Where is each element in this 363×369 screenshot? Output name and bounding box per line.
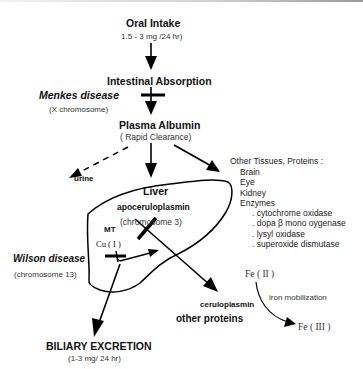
other-proteins-label: other proteins: [176, 314, 243, 324]
apoceruloplasmin-chromosome: (chromosome 3): [120, 218, 182, 227]
other-tissues-header: Other Tissues, Proteins :: [230, 157, 323, 166]
intestinal-absorption-label: Intestinal Absorption: [107, 76, 212, 87]
biliary-excretion-dose: (1-3 mg/ 24 hr): [68, 355, 121, 363]
oral-intake-label: Oral Intake: [126, 18, 180, 29]
menkes-disease-label: Menkes disease: [39, 90, 119, 101]
enzyme-item: . superoxide dismutase: [252, 239, 346, 249]
enzyme-list: . cytochrome oxidase . dopa β mono oygen…: [252, 208, 346, 249]
tissue-item: Eye: [240, 177, 275, 187]
liver-label: Liver: [143, 186, 168, 197]
fe-ii-label: Fe ( II ): [245, 270, 274, 280]
arrow-liver-to-biliary: [92, 264, 120, 337]
arrow-intestinal-to-plasma: [145, 87, 157, 115]
enzyme-item: . cytochrome oxidase: [252, 208, 346, 218]
plasma-albumin-label: Plasma Albumin: [119, 120, 200, 131]
enzyme-item: . lysyl oxidase: [252, 229, 346, 239]
wilson-disease-label: Wilson disease: [13, 254, 85, 264]
arrow-plasma-to-liver: [145, 143, 157, 178]
tissue-item: Brain: [240, 167, 275, 177]
tissue-item: Enzymes: [240, 198, 275, 208]
urine-label: urine: [74, 175, 94, 183]
wilson-chromosome: (chromosome 13): [14, 271, 77, 279]
enzyme-item: . dopa β mono oygenase: [252, 218, 346, 228]
fe-iii-label: Fe ( III ): [298, 323, 330, 333]
biliary-excretion-label: BILIARY EXCRETION: [46, 341, 152, 352]
plasma-albumin-sub: ( Rapid Clearance): [120, 133, 191, 142]
menkes-chromosome: (X chromosome): [49, 106, 108, 114]
ceruloplasmin-label: ceruloplasmin: [200, 301, 254, 309]
mt-label: MT: [104, 226, 116, 234]
copper-metabolism-diagram: Oral Intake 1.5 - 3 mg /24 hr) Intestina…: [0, 0, 363, 369]
arrow-oral-to-intestinal: [145, 43, 157, 70]
arrow-fe2-to-fe3: [256, 282, 296, 327]
other-tissues-list: Brain Eye Kidney Enzymes: [240, 167, 275, 208]
iron-mobilization-label: iron mobilization: [269, 294, 327, 302]
tissue-item: Kidney: [240, 188, 275, 198]
cu-i-label: Cu ( I ): [96, 240, 121, 249]
oral-intake-dose: 1.5 - 3 mg /24 hr): [121, 33, 182, 41]
arrow-plasma-to-tissues: [174, 145, 220, 172]
apoceruloplasmin-label: apoceruloplasmin: [117, 203, 190, 212]
